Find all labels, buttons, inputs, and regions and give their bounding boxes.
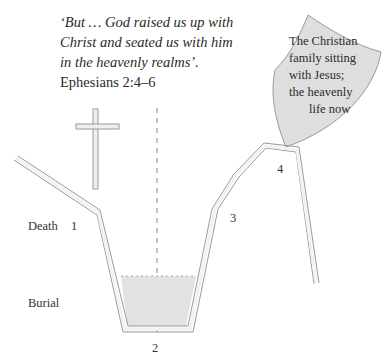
point-4-label: 4 — [277, 162, 283, 177]
grave-earth-fill — [121, 276, 196, 326]
burial-label: Burial — [28, 296, 59, 311]
shield-caption: The Christian family sitting with Jesus;… — [289, 33, 379, 118]
cross-icon — [76, 109, 119, 189]
point-2-label: 2 — [152, 341, 158, 356]
shield-line-5: life now — [289, 101, 379, 118]
point-3-label: 3 — [230, 211, 236, 226]
death-label: Death — [28, 219, 58, 234]
shield-line-4: the heavenly — [289, 84, 379, 101]
shield-line-2: family sitting — [289, 50, 379, 67]
shield-line-1: The Christian — [289, 33, 379, 50]
shield-line-3: with Jesus; — [289, 67, 379, 84]
point-1-label: 1 — [71, 219, 77, 234]
